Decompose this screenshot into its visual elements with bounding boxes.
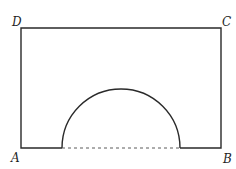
geometry-diagram: D C A B	[0, 0, 236, 169]
diagram-canvas: D C A B	[0, 0, 236, 169]
rectangle-outline	[21, 28, 221, 148]
vertex-label-A: A	[10, 151, 20, 165]
vertex-label-B: B	[222, 152, 232, 166]
vertex-label-D: D	[11, 15, 22, 29]
semicircle-arc	[62, 89, 180, 148]
vertex-label-C: C	[222, 15, 231, 29]
